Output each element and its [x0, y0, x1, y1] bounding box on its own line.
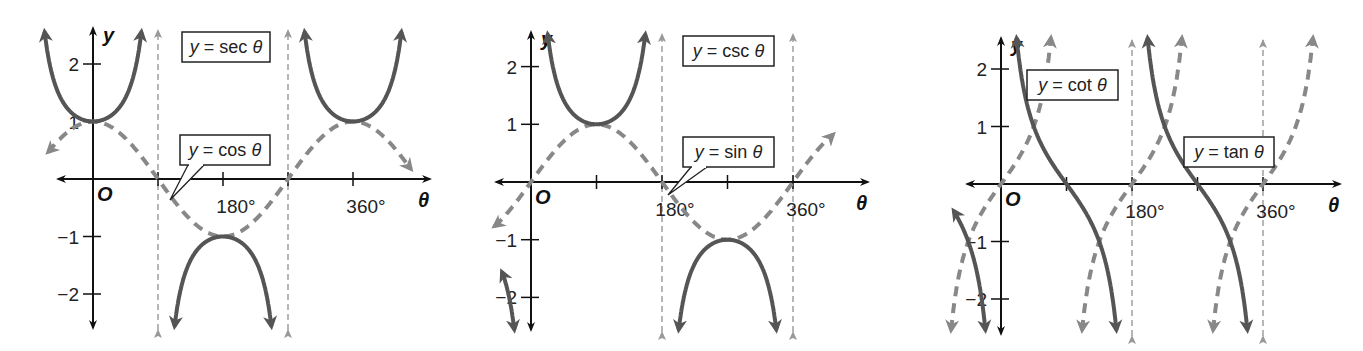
- figure-canvas: 180°360°21−1−2yθOy = sec θy = cos θ 180°…: [0, 0, 1363, 351]
- equation-part: θ: [752, 142, 762, 162]
- equation-part: θ: [1097, 75, 1107, 95]
- equation-part: θ: [252, 37, 262, 57]
- equation-label: y = tan θ: [1184, 137, 1274, 167]
- equation-label: y = sin θ: [668, 137, 774, 195]
- equation-part: θ: [754, 41, 764, 61]
- chart-sec-cos: 180°360°21−1−2yθOy = sec θy = cos θ: [45, 24, 430, 330]
- x-tick-label: 180°: [1125, 201, 1164, 222]
- equation-label: y = csc θ: [683, 36, 774, 66]
- equation-text: y = cot θ: [1036, 75, 1107, 95]
- equation-part: = sin: [704, 142, 753, 162]
- curve-csc: [548, 34, 646, 124]
- origin-label: O: [535, 186, 551, 208]
- x-axis-label: θ: [418, 189, 429, 211]
- y-tick-label: −1: [57, 227, 79, 248]
- origin-label: O: [97, 183, 113, 205]
- y-tick-label: 2: [68, 54, 79, 75]
- x-tick-label: 360°: [786, 199, 825, 220]
- callout-pointer: [170, 165, 204, 200]
- equation-label: y = cos θ: [170, 135, 270, 200]
- equation-label: y = sec θ: [182, 32, 270, 62]
- equation-text: y = sec θ: [188, 37, 263, 57]
- chart-csc-sin: 180°360°21−1−2yθOy = csc θy = sin θ: [495, 28, 868, 332]
- equation-part: θ: [1254, 142, 1264, 162]
- equation-label: y = cot θ: [1027, 70, 1118, 100]
- x-tick-label: 360°: [346, 196, 385, 217]
- equation-text: y = tan θ: [1192, 142, 1264, 162]
- chart-cot-tan: 180°360°21−1−2yθOy = cot θy = tan θ: [951, 34, 1340, 336]
- curve-sec: [305, 32, 402, 122]
- curve-sec: [175, 237, 272, 327]
- x-axis-label: θ: [1328, 194, 1339, 216]
- equation-text: y = cos θ: [187, 140, 262, 160]
- y-tick-label: 2: [976, 59, 987, 80]
- equation-part: = sec: [199, 37, 253, 57]
- equation-part: θ: [251, 140, 261, 160]
- curve-csc: [679, 240, 777, 330]
- origin-label: O: [1005, 188, 1021, 210]
- y-axis-label: y: [102, 24, 115, 46]
- y-tick-label: 2: [506, 57, 517, 78]
- equation-text: y = csc θ: [691, 41, 765, 61]
- x-tick-label: 180°: [216, 196, 255, 217]
- y-tick-label: −2: [57, 284, 79, 305]
- equation-part: = tan: [1203, 142, 1254, 162]
- equation-text: y = sin θ: [693, 142, 763, 162]
- x-tick-label: 360°: [1256, 201, 1295, 222]
- y-tick-label: −1: [495, 230, 517, 251]
- equation-part: = cot: [1047, 75, 1097, 95]
- y-tick-label: 1: [506, 114, 517, 135]
- equation-part: = cos: [198, 140, 252, 160]
- equation-part: = csc: [702, 41, 755, 61]
- x-axis-label: θ: [856, 192, 867, 214]
- y-tick-label: 1: [976, 117, 987, 138]
